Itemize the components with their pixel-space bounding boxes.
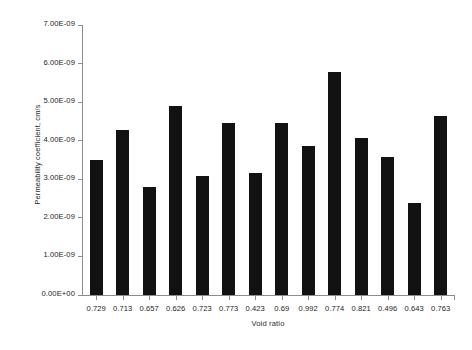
bar-slot: [136, 25, 163, 295]
x-tick: 0.992: [295, 295, 322, 313]
bar-slot: [295, 25, 322, 295]
y-tick-label: 1.00E-09: [43, 250, 75, 259]
x-tick: 0.496: [375, 295, 402, 313]
bar: [116, 130, 129, 295]
bar-chart-figure: Permeability coefficient, cm/s 7.00E-096…: [0, 0, 472, 350]
bar-slot: [375, 25, 402, 295]
y-tick-label: 5.00E-09: [43, 96, 75, 105]
x-tick-label: 0.723: [189, 304, 216, 313]
bar: [143, 187, 156, 295]
x-tick-label: 0.992: [295, 304, 322, 313]
x-tick-mark: [176, 295, 177, 300]
x-tick: 0.713: [110, 295, 137, 313]
bar: [434, 116, 447, 295]
x-tick: 0.774: [322, 295, 349, 313]
bar-slot: [110, 25, 137, 295]
x-tick-label: 0.657: [136, 304, 163, 313]
x-tick-mark: [308, 295, 309, 300]
bar: [328, 72, 341, 295]
x-tick-mark: [96, 295, 97, 300]
x-tick-mark: [255, 295, 256, 300]
x-tick: 0.626: [163, 295, 190, 313]
x-axis-title: Void ratio: [82, 319, 454, 328]
bar: [169, 106, 182, 295]
y-tick-label: 0.00E+00: [41, 289, 75, 298]
x-axis-end-tick: [454, 295, 455, 300]
x-tick: 0.723: [189, 295, 216, 313]
bar-slot: [216, 25, 243, 295]
x-tick-mark: [123, 295, 124, 300]
x-tick-label: 0.773: [216, 304, 243, 313]
x-tick-mark: [202, 295, 203, 300]
y-tick-label: 6.00E-09: [43, 58, 75, 67]
x-tick: 0.423: [242, 295, 269, 313]
bar-slot: [269, 25, 296, 295]
bar: [381, 157, 394, 295]
x-tick: 0.657: [136, 295, 163, 313]
bar-slot: [189, 25, 216, 295]
x-tick-label: 0.774: [322, 304, 349, 313]
bar-slot: [401, 25, 428, 295]
x-tick-label: 0.643: [401, 304, 428, 313]
bar-series: [83, 25, 454, 295]
x-tick-mark: [149, 295, 150, 300]
x-tick-label: 0.496: [375, 304, 402, 313]
x-tick-mark: [441, 295, 442, 300]
x-tick: 0.643: [401, 295, 428, 313]
x-tick: 0.773: [216, 295, 243, 313]
x-tick: 0.763: [428, 295, 455, 313]
bar: [90, 160, 103, 295]
bar: [275, 123, 288, 295]
x-tick: 0.729: [83, 295, 110, 313]
bar: [408, 203, 421, 295]
x-tick-label: 0.729: [83, 304, 110, 313]
bar-slot: [428, 25, 455, 295]
x-tick-label: 0.713: [110, 304, 137, 313]
x-tick-label: 0.763: [428, 304, 455, 313]
x-tick: 0.821: [348, 295, 375, 313]
x-tick-mark: [361, 295, 362, 300]
x-tick-mark: [229, 295, 230, 300]
y-tick-label: 4.00E-09: [43, 135, 75, 144]
bar: [302, 146, 315, 295]
x-tick-label: 0.821: [348, 304, 375, 313]
plot-area: 7.00E-096.00E-095.00E-094.00E-093.00E-09…: [82, 25, 454, 296]
bar-slot: [322, 25, 349, 295]
bar-slot: [83, 25, 110, 295]
bar: [249, 173, 262, 295]
x-tick-label: 0.69: [269, 304, 296, 313]
bar-slot: [163, 25, 190, 295]
x-tick-mark: [414, 295, 415, 300]
y-axis-title: Permeability coefficient, cm/s: [33, 55, 42, 255]
bar-slot: [348, 25, 375, 295]
x-tick-mark: [282, 295, 283, 300]
x-tick-mark: [335, 295, 336, 300]
y-tick-label: 3.00E-09: [43, 173, 75, 182]
bar: [196, 176, 209, 295]
bar: [222, 123, 235, 295]
x-tick-label: 0.423: [242, 304, 269, 313]
x-axis-ticks: 0.7290.7130.6570.6260.7230.7730.4230.690…: [83, 295, 454, 313]
bar-slot: [242, 25, 269, 295]
x-tick: 0.69: [269, 295, 296, 313]
x-tick-mark: [388, 295, 389, 300]
x-tick-label: 0.626: [163, 304, 190, 313]
y-tick-label: 7.00E-09: [43, 19, 75, 28]
y-tick-label: 2.00E-09: [43, 212, 75, 221]
bar: [355, 138, 368, 295]
